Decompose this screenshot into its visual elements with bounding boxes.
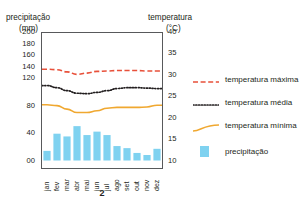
left-axis-ticks: 004080120140160180200 (0, 32, 38, 169)
legend-symbol (193, 74, 219, 86)
legend-label: temperatura mínima (225, 121, 297, 131)
right-axis-title: temperatura (148, 13, 192, 23)
legend-item-dotted-black-line: temperatura média (193, 97, 297, 109)
left-tick-0: 00 (27, 157, 35, 165)
plot-area (42, 33, 162, 168)
legend-item-solid-orange-line: temperatura mínima (193, 120, 297, 132)
left-axis-title: precipitação (6, 13, 50, 23)
chart-svg (42, 33, 162, 168)
temperature-line-máxima (42, 69, 162, 74)
temperature-line-média (42, 86, 162, 94)
precipitation-bar-jul (103, 135, 110, 160)
precipitation-bar-fev (53, 134, 60, 161)
legend-label: precipitação (225, 147, 268, 157)
right-tick-30: 30 (168, 71, 176, 79)
precipitation-bar-nov (143, 155, 150, 161)
temperature-line-mínima (42, 105, 162, 113)
left-tick-200: 200 (22, 28, 35, 36)
right-tick-20: 20 (168, 114, 176, 122)
precipitation-bar-out (133, 153, 140, 161)
legend-item-dashed-red-line: temperatura máxima (193, 74, 297, 86)
left-tick-160: 160 (22, 51, 35, 59)
left-tick-120: 120 (22, 74, 35, 82)
right-tick-10: 10 (168, 157, 176, 165)
left-tick-180: 180 (22, 40, 35, 48)
legend-swatch-precipitation (200, 146, 209, 157)
legend-symbol (193, 97, 219, 109)
precipitation-bar-mai (83, 135, 90, 160)
legend-symbol (193, 120, 219, 132)
precipitation-bar-jun (93, 132, 100, 161)
precipitation-bar-ago (113, 146, 120, 160)
climate-chart-figure: precipitação (mm) temperatura (°C) 00408… (0, 0, 299, 205)
legend-label: temperatura máxima (225, 75, 298, 85)
plot-frame (41, 32, 163, 169)
right-tick-35: 35 (168, 49, 176, 57)
precipitation-bar-set (123, 148, 130, 160)
figure-caption: 2 (41, 188, 163, 198)
right-tick-15: 15 (168, 135, 176, 143)
left-tick-40: 40 (27, 129, 35, 137)
right-tick-25: 25 (168, 92, 176, 100)
precipitation-bar-jan (43, 151, 50, 161)
legend-item-blue-square-swatch: precipitação (193, 146, 297, 158)
left-tick-80: 80 (27, 102, 35, 110)
precipitation-bar-mar (63, 136, 70, 160)
precipitation-bar-abr (73, 126, 80, 160)
legend-label: temperatura média (225, 98, 292, 108)
right-tick-40: 40 (168, 28, 176, 36)
left-tick-140: 140 (22, 63, 35, 71)
right-axis-ticks: 10152025303540 (165, 32, 195, 169)
precipitation-bar-dez (153, 149, 160, 161)
